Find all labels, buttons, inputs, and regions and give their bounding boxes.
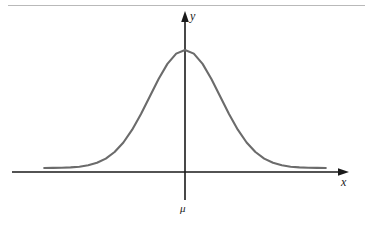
mean-mu-label: μ xyxy=(180,203,186,214)
plot-area xyxy=(0,0,365,233)
y-axis-label: y xyxy=(190,10,195,22)
x-axis-label: x xyxy=(341,176,346,188)
normal-distribution-figure: y x μ xyxy=(0,0,365,233)
x-axis xyxy=(12,168,349,176)
